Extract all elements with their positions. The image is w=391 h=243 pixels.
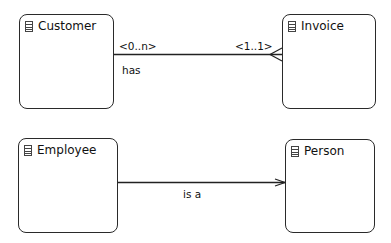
- table-icon: [25, 21, 33, 32]
- entity-name: Invoice: [301, 19, 344, 33]
- table-icon: [291, 146, 299, 157]
- relationship-label-is-a: is a: [183, 188, 201, 200]
- table-icon: [288, 21, 296, 32]
- entity-name: Customer: [38, 19, 96, 33]
- entity-invoice[interactable]: Invoice: [282, 14, 376, 109]
- table-icon: [24, 145, 32, 156]
- source-cardinality-label: <0..n>: [119, 40, 157, 52]
- entity-employee[interactable]: Employee: [18, 138, 118, 233]
- entity-name: Person: [304, 144, 344, 158]
- relationship-label-has: has: [122, 64, 141, 76]
- target-cardinality-label: <1..1>: [235, 40, 273, 52]
- entity-person[interactable]: Person: [285, 139, 375, 233]
- relationship-is-a-connector[interactable]: [117, 179, 285, 186]
- entity-name: Employee: [37, 143, 96, 157]
- entity-customer[interactable]: Customer: [19, 14, 114, 109]
